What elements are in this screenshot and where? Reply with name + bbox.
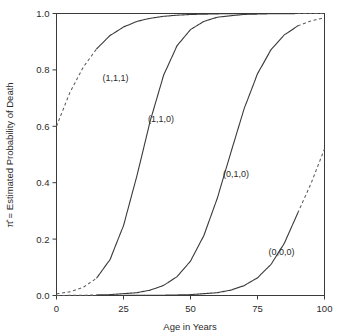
y-tick-label: 1.0 [36, 8, 49, 19]
y-tick-label: 0.4 [36, 177, 49, 188]
logistic-curves-figure: 0.00.20.40.60.81.0 0255075100 (1,1,1)(1,… [0, 0, 339, 336]
x-tick-label: 100 [317, 303, 333, 314]
y-tick-label: 0.2 [36, 234, 49, 245]
curve-extrapolation-high [298, 149, 325, 213]
y-axis-tick-labels: 0.00.20.40.60.81.0 [36, 8, 49, 301]
x-axis-title: Age in Years [163, 321, 217, 332]
y-axis-ticks [53, 14, 57, 296]
curve-solid-000 [97, 213, 298, 295]
curve-solid-111 [97, 14, 298, 49]
curve-solid-110 [97, 14, 298, 278]
curve-extrapolation-low [57, 49, 97, 127]
y-tick-label: 0.6 [36, 121, 49, 132]
y-tick-label: 0.8 [36, 64, 49, 75]
series-annotations: (1,1,1)(1,1,0)(0,1,0)(0,0,0) [102, 73, 294, 256]
x-axis-tick-labels: 0255075100 [54, 303, 333, 314]
x-tick-label: 75 [252, 303, 263, 314]
y-axis-title: π̂ = Estimated Probability of Death [4, 82, 15, 227]
x-axis-ticks [57, 296, 325, 300]
chart-canvas: 0.00.20.40.60.81.0 0255075100 (1,1,1)(1,… [0, 0, 339, 336]
x-tick-label: 50 [185, 303, 196, 314]
curve-extrapolation-low [57, 278, 97, 294]
x-tick-label: 25 [118, 303, 129, 314]
curve-label-010: (0,1,0) [223, 169, 249, 179]
curve-label-110: (1,1,0) [148, 114, 174, 124]
curve-label-000: (0,0,0) [269, 247, 295, 257]
curve-solid-010 [97, 26, 298, 295]
curve-extrapolation-high [298, 18, 325, 26]
curve-label-111: (1,1,1) [102, 73, 128, 83]
x-tick-label: 0 [54, 303, 59, 314]
y-tick-label: 0.0 [36, 290, 49, 301]
